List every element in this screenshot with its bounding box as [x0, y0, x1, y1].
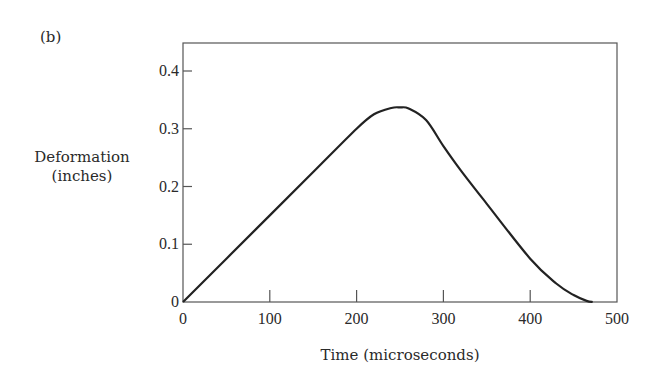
y-tick-label: 0.3 [159, 120, 179, 137]
y-axis-ticks: 00.10.20.30.4 [159, 62, 192, 310]
x-tick-label: 500 [605, 310, 629, 327]
x-axis-ticks: 0100200300400500 [179, 290, 629, 327]
x-tick-label: 200 [345, 310, 369, 327]
x-tick-label: 0 [179, 310, 187, 327]
x-tick-label: 100 [258, 310, 282, 327]
x-tick-label: 300 [431, 310, 455, 327]
y-tick-label: 0.2 [159, 178, 179, 195]
line-chart: 0100200300400500 00.10.20.30.4 [0, 0, 662, 374]
y-tick-label: 0.4 [159, 62, 179, 79]
deformation-curve [183, 107, 593, 302]
plot-frame [183, 43, 617, 302]
y-tick-label: 0.1 [159, 235, 179, 252]
x-tick-label: 400 [518, 310, 542, 327]
y-tick-label: 0 [171, 293, 179, 310]
